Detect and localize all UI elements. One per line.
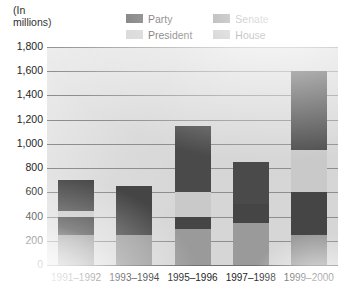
legend-swatch-president xyxy=(126,30,143,39)
bar-group-1995-1996[interactable] xyxy=(175,47,211,265)
bar-segment-president-1995-1996[interactable] xyxy=(175,192,211,216)
y-axis-tick-1000: 1,000 xyxy=(0,138,43,149)
legend-item-senate: Senate xyxy=(213,12,268,25)
bar-group-1993-1994[interactable] xyxy=(116,47,152,265)
bar-segment-house-1999-2000[interactable] xyxy=(291,235,327,265)
y-axis-units-label: (In millions) xyxy=(13,5,83,28)
y-axis-tick-0: 0 xyxy=(0,259,43,270)
bar-segment-party-1991-1992[interactable] xyxy=(58,180,94,210)
y-axis-tick-1400: 1,400 xyxy=(0,89,43,100)
bar-segment-house-1997-1998[interactable] xyxy=(233,223,269,265)
y-axis-tick-600: 600 xyxy=(0,186,43,197)
bar-group-1997-1998[interactable] xyxy=(233,47,269,265)
bar-segment-house-1995-1996[interactable] xyxy=(175,229,211,265)
legend-label-senate: Senate xyxy=(235,13,268,25)
legend-swatch-party xyxy=(126,14,143,23)
y-axis-units-line-1: (In xyxy=(13,5,83,17)
x-axis-tick-1993-1994: 1993–1994 xyxy=(105,272,163,284)
bar-group-1999-2000[interactable] xyxy=(291,47,327,265)
x-axis-tick-1995-1996: 1995–1996 xyxy=(163,272,221,284)
y-axis-tick-800: 800 xyxy=(0,162,43,173)
bar-segment-senate-1995-1996[interactable] xyxy=(175,217,211,229)
bar-segment-house-1993-1994[interactable] xyxy=(116,235,152,265)
y-axis-tick-1200: 1,200 xyxy=(0,114,43,125)
y-axis-tick-1600: 1,600 xyxy=(0,65,43,76)
x-axis-tick-1999-2000: 1999–2000 xyxy=(280,272,338,284)
legend-swatch-senate xyxy=(213,14,230,23)
legend-item-house: House xyxy=(213,28,268,41)
legend-label-president: President xyxy=(148,29,192,41)
bar-segment-party-1999-2000[interactable] xyxy=(291,71,327,150)
legend-label-party: Party xyxy=(148,13,173,25)
y-axis-tick-200: 200 xyxy=(0,235,43,246)
bar-segment-party-1995-1996[interactable] xyxy=(175,126,211,193)
bar-segment-senate-1991-1992[interactable] xyxy=(58,217,94,235)
bar-segment-president-1991-1992[interactable] xyxy=(58,211,94,217)
bar-segment-president-1999-2000[interactable] xyxy=(291,150,327,192)
gridline-0 xyxy=(47,265,338,266)
x-axis-tick-1991-1992: 1991–1992 xyxy=(47,272,105,284)
bar-segment-senate-1993-1994[interactable] xyxy=(116,186,152,234)
y-axis-tick-400: 400 xyxy=(0,211,43,222)
x-axis-tick-1997-1998: 1997–1998 xyxy=(222,272,280,284)
y-axis-units-line-2: millions) xyxy=(13,17,83,29)
bar-segment-senate-1999-2000[interactable] xyxy=(291,192,327,234)
chart-legend: Party Senate President House xyxy=(126,12,269,41)
bar-group-1991-1992[interactable] xyxy=(58,47,94,265)
legend-item-party: Party xyxy=(126,12,192,25)
legend-item-president: President xyxy=(126,28,192,41)
bar-segment-house-1991-1992[interactable] xyxy=(58,235,94,265)
bar-segment-senate-1997-1998[interactable] xyxy=(233,204,269,222)
chart-container: (In millions) Party Senate President Hou… xyxy=(0,0,355,297)
y-axis-tick-1800: 1,800 xyxy=(0,41,43,52)
bar-segment-party-1997-1998[interactable] xyxy=(233,162,269,204)
legend-label-house: House xyxy=(235,29,265,41)
legend-swatch-house xyxy=(213,30,230,39)
